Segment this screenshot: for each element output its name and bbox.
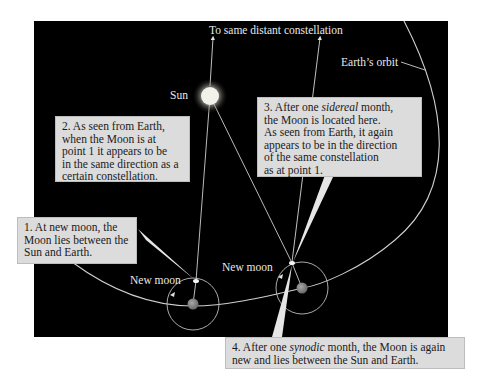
earth-position-2 <box>297 283 308 294</box>
sun-icon <box>201 87 219 105</box>
callout-3-pointer <box>293 175 334 262</box>
label-sun: Sun <box>170 90 188 102</box>
sidereal-synodic-diagram: To same distant constellation Earth’s or… <box>0 0 482 385</box>
label-new-moon-2: New moon <box>222 262 273 274</box>
emphasis-synodic: synodic <box>289 341 324 353</box>
label-new-moon-1: New moon <box>130 275 181 287</box>
callout-1: 1. At new moon, the Moon lies between th… <box>17 217 137 264</box>
label-earth-orbit: Earth’s orbit <box>341 57 398 69</box>
moon-position-1 <box>193 279 199 283</box>
callout-3: 3. After one sidereal month, the Moon is… <box>257 97 422 177</box>
callout-1-pointer <box>138 229 195 280</box>
earth-position-1 <box>188 299 199 310</box>
emphasis-sidereal: sidereal <box>321 101 358 113</box>
moon-position-2 <box>289 261 295 265</box>
label-top-direction: To same distant constellation <box>209 25 343 37</box>
callout-2: 2. As seen from Earth, when the Moon is … <box>55 116 190 182</box>
callout-4: 4. After one synodic month, the Moon is … <box>225 337 465 369</box>
orbit-artwork <box>0 0 482 385</box>
moon-motion-arrow-1 <box>170 292 175 297</box>
